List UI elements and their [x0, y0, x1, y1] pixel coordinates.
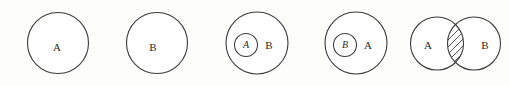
panel-set-a-alone: A — [28, 13, 89, 74]
panel-a-subset-of-b: A B — [226, 12, 288, 74]
label-a: A — [53, 41, 61, 53]
label-a-outer: A — [364, 39, 372, 51]
label-b: B — [149, 41, 156, 53]
label-b-outer: B — [265, 39, 272, 51]
circle-b — [127, 13, 188, 74]
label-a-overlap: A — [424, 39, 432, 51]
label-a-inner: A — [242, 39, 250, 50]
panel-set-b-alone: B — [127, 13, 188, 74]
set-diagram-strip: A B A B B A — [0, 0, 509, 86]
label-b-overlap: B — [481, 39, 488, 51]
label-b-inner: B — [342, 39, 348, 50]
set-diagram-canvas: A B A B B A — [0, 0, 509, 86]
panel-b-subset-of-a: B A — [325, 12, 387, 74]
